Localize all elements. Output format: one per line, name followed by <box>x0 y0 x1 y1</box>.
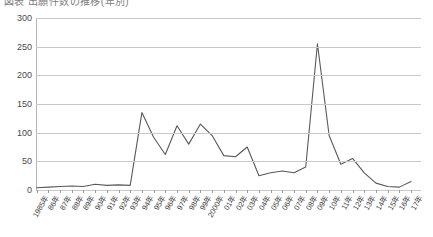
y-axis-label-100: 100 <box>2 128 32 138</box>
x-axis-label-32: 17年 <box>407 193 424 212</box>
gridline-50 <box>36 161 421 162</box>
y-axis-labels: 050100150200250300 <box>0 18 32 190</box>
gridline-300 <box>36 18 421 19</box>
series-polyline <box>37 44 411 188</box>
y-axis-label-150: 150 <box>2 99 32 109</box>
plot-area <box>36 18 421 190</box>
x-axis-labels: 1985年86年87年88年89年90年91年92年93年94年95年96年97… <box>36 193 431 237</box>
chart-figure: 図表 出願件数の推移(年別) 050100150200250300 1985年8… <box>0 0 433 237</box>
gridline-250 <box>36 47 421 48</box>
page-title: 図表 出願件数の推移(年別) <box>4 0 129 8</box>
y-axis-label-300: 300 <box>2 13 32 23</box>
gridline-200 <box>36 75 421 76</box>
y-axis-label-50: 50 <box>2 156 32 166</box>
y-axis-label-0: 0 <box>2 185 32 195</box>
gridline-150 <box>36 104 421 105</box>
y-axis-label-200: 200 <box>2 70 32 80</box>
gridline-100 <box>36 133 421 134</box>
figure-title-strip: 図表 出願件数の推移(年別) <box>0 0 433 9</box>
y-axis-label-250: 250 <box>2 42 32 52</box>
